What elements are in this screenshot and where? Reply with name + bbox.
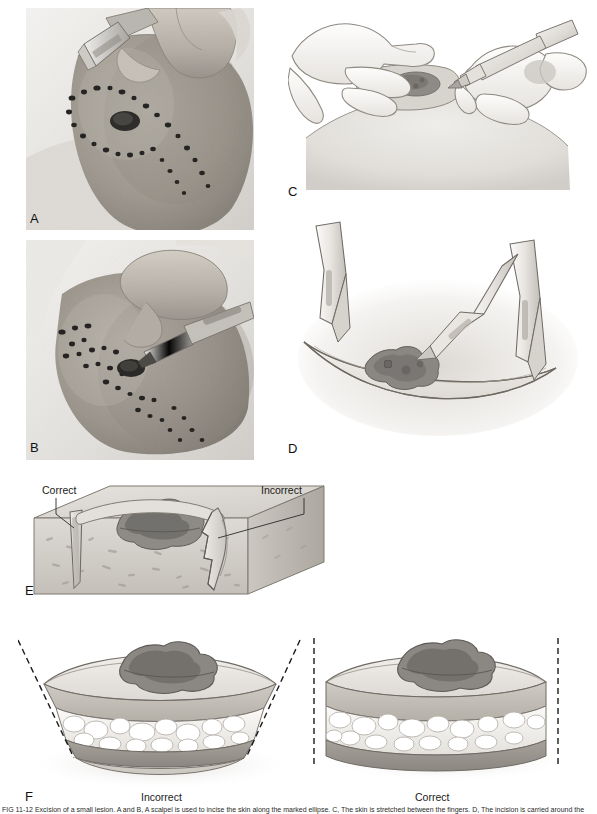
panel-b (26, 240, 254, 460)
panel-label-c: C (288, 184, 298, 199)
panel-label-e: E (25, 583, 34, 598)
panel-e-correct-label: Correct (42, 484, 76, 496)
panel-e-incorrect-label: Incorrect (261, 484, 302, 496)
panel-d-illustration (288, 218, 588, 444)
panel-label-b: B (30, 440, 39, 455)
figure-root: A (0, 0, 597, 814)
specimen-incorrect (18, 640, 300, 790)
panel-a-photo (26, 8, 254, 230)
panel-f-illustration (18, 632, 580, 792)
panel-f-incorrect-label: Incorrect (141, 791, 182, 803)
panel-a (26, 8, 254, 230)
panel-label-d: D (288, 441, 298, 456)
panel-f-correct-label: Correct (415, 791, 449, 803)
panel-c-illustration (288, 10, 588, 190)
panel-b-photo (26, 240, 254, 460)
panel-label-a: A (30, 211, 39, 226)
specimen-correct (314, 638, 574, 782)
panel-d (288, 218, 588, 444)
panel-c (288, 10, 588, 190)
figure-caption: FIG 11-12 Excision of a small lesion. A … (2, 806, 595, 814)
panel-e (22, 480, 352, 610)
panel-f (18, 632, 580, 792)
panel-label-f: F (25, 789, 33, 804)
panel-e-illustration (22, 480, 352, 610)
